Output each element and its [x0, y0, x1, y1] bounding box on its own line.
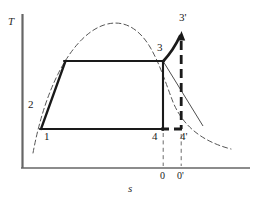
- point-label-4: 4: [152, 131, 158, 142]
- point-label-3: 3: [157, 42, 163, 53]
- tick-droplines-group: [163, 133, 181, 166]
- diagram-canvas: [0, 0, 261, 206]
- cross-line-3-to-lower-right: [163, 61, 203, 126]
- x-axis-label: s: [128, 183, 132, 194]
- cycle-segment-1-2-3: [41, 61, 66, 129]
- construction-lines-group: [163, 61, 203, 126]
- x-tick-label-0-prime: 0': [177, 171, 184, 181]
- point-label-2: 2: [28, 99, 34, 110]
- y-axis-label: T: [8, 16, 14, 27]
- point-label-1: 1: [44, 131, 50, 142]
- saturation-dome-curve: [33, 23, 231, 153]
- saturation-dome-group: [33, 23, 231, 153]
- point-label-3-prime: 3': [179, 12, 186, 23]
- ts-diagram-figure: T s 1 2 3 3' 4 4' 0 0': [0, 0, 261, 206]
- superheat-curve-3-to-3prime: [163, 36, 180, 62]
- cycle-path-group: [40, 61, 164, 130]
- point-label-4-prime: 4': [180, 131, 187, 142]
- x-tick-label-0: 0: [160, 171, 165, 181]
